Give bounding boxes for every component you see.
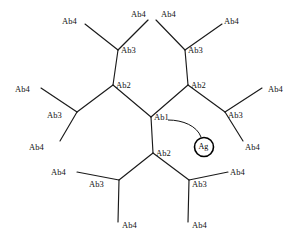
leaf-label-ab4-9: Ab4: [51, 168, 66, 177]
edge-ab3tl-ab4-1: [85, 24, 118, 50]
antigen-group: [168, 120, 214, 157]
leaf-label-ab4-7: Ab4: [268, 85, 283, 94]
edges-group: [41, 20, 262, 222]
node-label-ab3-br: Ab3: [192, 180, 207, 189]
leaf-label-ab4-5: Ab4: [15, 85, 30, 94]
node-label-ab3-tl: Ab3: [121, 46, 136, 55]
leaf-label-ab4-4: Ab4: [224, 17, 239, 26]
node-label-ab3-r: Ab3: [228, 111, 243, 120]
network-graph-svg: [0, 0, 301, 240]
leaf-label-ab4-12: Ab4: [192, 221, 207, 230]
idiotypic-network-diagram: Ab1Ab2Ab2Ab2Ab3Ab3Ab3Ab3Ab3Ab3Ab4Ab4Ab4A…: [0, 0, 301, 240]
edge-ab2ur-ab3-top-right: [185, 50, 188, 85]
leaf-label-ab4-2: Ab4: [131, 10, 146, 19]
edge-ab2ul-ab3-left: [77, 85, 113, 112]
edge-ab3tr-ab4-3: [156, 20, 185, 50]
edge-ab1-ab2-bottom: [151, 117, 153, 153]
edge-ab3br-ab4-12: [188, 180, 189, 222]
leaf-label-ab4-3: Ab4: [161, 10, 176, 19]
edge-ab3l-ab4-5: [41, 88, 77, 112]
node-label-ab3-l: Ab3: [47, 111, 62, 120]
leaf-label-ab4-10: Ab4: [122, 221, 137, 230]
antigen-pointer-arrow: [168, 120, 201, 137]
leaf-label-ab4-6: Ab4: [29, 143, 44, 152]
node-label-ab2-ul: Ab2: [116, 81, 131, 90]
node-label-ab2-ur: Ab2: [191, 81, 206, 90]
edge-ab3r-ab4-7: [225, 88, 262, 112]
antigen-label: Ag: [199, 143, 209, 151]
node-label-ab1: Ab1: [154, 113, 169, 122]
leaf-label-ab4-11: Ab4: [230, 168, 245, 177]
node-label-ab3-tr: Ab3: [188, 46, 203, 55]
edge-ab3bl-ab4-10: [118, 180, 119, 222]
edge-ab2b-ab3-bottom-left: [119, 153, 153, 180]
node-label-ab3-bl: Ab3: [89, 180, 104, 189]
node-label-ab2-b: Ab2: [156, 149, 171, 158]
edge-ab3l-ab4-6: [60, 112, 77, 141]
leaf-label-ab4-8: Ab4: [245, 143, 260, 152]
leaf-label-ab4-1: Ab4: [62, 17, 77, 26]
